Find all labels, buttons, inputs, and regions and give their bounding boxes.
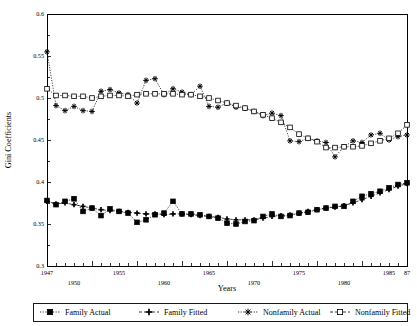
data-point-open-square [243, 106, 248, 111]
data-point-open-square [225, 101, 230, 106]
data-point-asterisk [350, 138, 356, 144]
data-point-filled-square [99, 213, 104, 218]
data-point-asterisk [107, 87, 113, 93]
legend-label: Family Fitted [164, 308, 207, 317]
x-axis-title: Years [218, 284, 236, 293]
data-point-open-square [153, 92, 158, 97]
data-point-asterisk [404, 132, 410, 138]
data-point-asterisk [143, 78, 149, 84]
data-point-asterisk [278, 113, 284, 119]
legend-label: Nonfamily Fitted [355, 308, 410, 317]
data-point-open-square [342, 144, 347, 149]
data-point-asterisk [332, 154, 338, 160]
x-tick-label: 1960 [158, 279, 170, 286]
data-point-asterisk [62, 108, 68, 114]
chart-canvas: 0.30.350.40.450.50.550.61947195519651975… [0, 0, 417, 326]
data-point-asterisk [197, 83, 203, 89]
data-point-open-square [297, 132, 302, 137]
data-point-asterisk [269, 110, 275, 116]
chart-legend: Family ActualFamily FittedNonfamily Actu… [33, 303, 410, 321]
data-point-open-square [108, 93, 113, 98]
data-point-open-square [171, 92, 176, 97]
data-point-open-square [378, 139, 383, 144]
data-point-open-square [162, 92, 167, 97]
data-point-open-square [324, 145, 329, 150]
data-point-open-square [252, 109, 257, 114]
legend-label: Nonfamily Actual [263, 308, 321, 317]
y-tick-label: 0.35 [33, 220, 44, 227]
data-point-asterisk [53, 103, 59, 109]
data-point-asterisk [44, 49, 50, 55]
data-point-open-square [369, 141, 374, 146]
data-point-asterisk [89, 109, 95, 115]
data-point-open-square [207, 96, 212, 101]
data-point-open-square [126, 94, 131, 99]
data-point-asterisk [71, 104, 77, 110]
data-point-open-square [189, 92, 194, 97]
data-point-plus [134, 210, 139, 215]
data-point-asterisk [170, 86, 176, 92]
data-point-asterisk [296, 139, 302, 145]
data-point-open-square [288, 125, 293, 130]
y-tick-label: 0.6 [36, 10, 44, 17]
x-tick-label: 1980 [338, 279, 350, 286]
data-point-asterisk [206, 104, 212, 110]
data-point-asterisk [323, 140, 329, 146]
data-point-filled-square [135, 220, 140, 225]
y-tick-label: 0.4 [36, 178, 44, 185]
data-point-asterisk [368, 132, 374, 138]
x-tick-label: 87 [404, 269, 410, 276]
data-point-open-square [180, 92, 185, 97]
data-point-asterisk [134, 100, 140, 106]
data-point-filled-square [144, 218, 149, 223]
data-point-open-square [90, 96, 95, 101]
legend-marker-asterisk-icon [245, 309, 252, 316]
x-tick-label: 1985 [383, 269, 395, 276]
data-point-filled-square [72, 197, 77, 202]
legend-marker-open-square-icon [337, 309, 342, 314]
data-point-asterisk [287, 138, 293, 144]
x-tick-label: 1970 [248, 279, 260, 286]
x-tick-label: 1975 [293, 269, 305, 276]
data-point-open-square [234, 103, 239, 108]
data-point-open-square [63, 93, 68, 98]
data-point-open-square [351, 144, 356, 149]
y-axis-title: Gini Coefficients [4, 112, 13, 168]
data-point-open-square [117, 93, 122, 98]
data-point-open-square [333, 145, 338, 150]
x-tick-label: 1947 [41, 269, 53, 276]
data-point-open-square [270, 116, 275, 121]
data-point-open-square [387, 136, 392, 141]
data-point-plus [98, 207, 103, 212]
data-point-open-square [144, 92, 149, 97]
data-point-asterisk [80, 108, 86, 114]
data-point-open-square [360, 144, 365, 149]
data-point-asterisk [377, 130, 383, 136]
data-point-open-square [81, 94, 86, 99]
x-tick-label: 1965 [203, 269, 215, 276]
data-point-filled-square [171, 199, 176, 204]
y-tick-label: 0.55 [33, 52, 44, 59]
data-point-open-square [135, 92, 140, 97]
data-point-open-square [72, 94, 77, 99]
y-tick-label: 0.45 [33, 136, 44, 143]
x-tick-label: 1955 [113, 269, 125, 276]
data-point-open-square [216, 98, 221, 103]
data-point-open-square [315, 139, 320, 144]
data-point-asterisk [98, 88, 104, 94]
legend-marker-filled-square-icon [47, 309, 52, 314]
data-point-plus [170, 211, 175, 216]
data-point-open-square [261, 113, 266, 118]
data-point-open-square [306, 136, 311, 141]
x-tick-label: 1950 [68, 279, 80, 286]
data-point-filled-square [81, 209, 86, 214]
data-point-plus [80, 204, 85, 209]
legend-label: Family Actual [65, 308, 111, 317]
data-point-open-square [405, 123, 410, 128]
data-point-open-square [45, 86, 50, 91]
data-point-open-square [396, 131, 401, 136]
data-point-open-square [99, 94, 104, 99]
data-point-open-square [54, 93, 59, 98]
data-point-asterisk [215, 104, 221, 110]
series-layer [44, 49, 410, 226]
